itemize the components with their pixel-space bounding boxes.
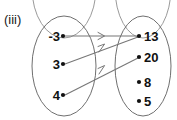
- codomain-element-label-20: 20: [144, 51, 158, 64]
- codomain-element-label-13: 13: [144, 30, 158, 43]
- domain-set-oval: [32, 16, 96, 116]
- dot-3: [61, 62, 65, 66]
- codomain-element-label-5: 5: [144, 95, 151, 108]
- dot-8: [137, 80, 141, 84]
- domain-element-label-neg3: -3: [48, 30, 60, 43]
- dot-13: [137, 34, 141, 38]
- partial-oval-above-left: [32, 0, 96, 38]
- arrow-3-to-13: [65, 37, 138, 64]
- mapping-arrows: [65, 32, 138, 95]
- figure-label: (iii): [4, 12, 21, 27]
- codomain-element-dots: [137, 34, 141, 103]
- domain-element-dots: [61, 34, 65, 97]
- diagram-canvas: (iii) -3 3 4 13 20 8 5: [0, 0, 177, 120]
- arrow-4-to-20-head: [98, 66, 105, 75]
- partial-oval-above-right: [115, 0, 171, 38]
- arrow-4-to-20: [65, 58, 138, 95]
- domain-element-label-4: 4: [53, 89, 60, 102]
- codomain-element-label-8: 8: [144, 76, 151, 89]
- dot-5: [137, 99, 141, 103]
- dot-4: [61, 93, 65, 97]
- dot-neg3: [61, 34, 65, 38]
- dot-20: [137, 55, 141, 59]
- domain-element-label-3: 3: [53, 58, 60, 71]
